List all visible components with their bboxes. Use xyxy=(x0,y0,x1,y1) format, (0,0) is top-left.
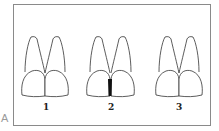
pair-label-2: 2 xyxy=(108,102,114,112)
black-triangle xyxy=(108,79,112,96)
tooth-pair-2 xyxy=(87,37,135,97)
tooth-pair-3 xyxy=(156,37,203,97)
teeth-diagram: 1 2 3 xyxy=(0,0,219,131)
pair-label-3: 3 xyxy=(176,102,182,112)
tooth-pair-1 xyxy=(22,37,69,97)
pair-label-1: 1 xyxy=(43,102,49,112)
